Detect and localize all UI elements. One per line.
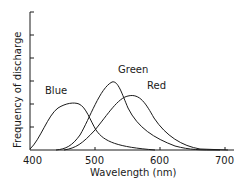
x-tick-600: 600 [150,155,169,166]
curve-green [56,82,220,150]
y-axis-label: Frequency of discharge [12,32,23,148]
curve-red [64,96,228,150]
label-blue: Blue [45,85,67,96]
spectral-chart: 400 500 600 700 Wavelength (nm) Frequenc… [0,0,249,188]
x-axis-label: Wavelength (nm) [90,167,176,178]
x-tick-400: 400 [23,155,42,166]
label-red: Red [147,80,166,91]
label-green: Green [118,64,148,75]
y-axis [30,12,34,150]
x-tick-500: 500 [85,155,104,166]
x-tick-700: 700 [215,155,234,166]
